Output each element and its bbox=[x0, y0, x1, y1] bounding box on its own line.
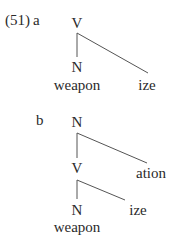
tree-b-root-node: N bbox=[72, 115, 83, 130]
tree-b-child-node: N bbox=[72, 203, 83, 218]
tree-b-outer-suffix: ation bbox=[136, 166, 166, 181]
tree-a-child-node: N bbox=[72, 60, 83, 75]
branch-b-n-to-ation bbox=[77, 133, 147, 163]
subexample-b-label: b bbox=[36, 113, 44, 128]
subexample-a-label: a bbox=[33, 13, 40, 28]
tree-a-suffix: ize bbox=[138, 78, 155, 93]
example-number: (51) bbox=[5, 13, 30, 28]
tree-a-root-node: V bbox=[72, 16, 83, 31]
branch-b-v-to-ize bbox=[77, 180, 125, 200]
tree-branches bbox=[0, 0, 174, 245]
tree-b-mid-node: V bbox=[72, 161, 83, 176]
tree-b-stem: weapon bbox=[54, 220, 101, 235]
branch-a-v-to-ize bbox=[77, 33, 148, 73]
tree-a-stem: weapon bbox=[54, 78, 101, 93]
tree-b-inner-suffix: ize bbox=[129, 203, 146, 218]
